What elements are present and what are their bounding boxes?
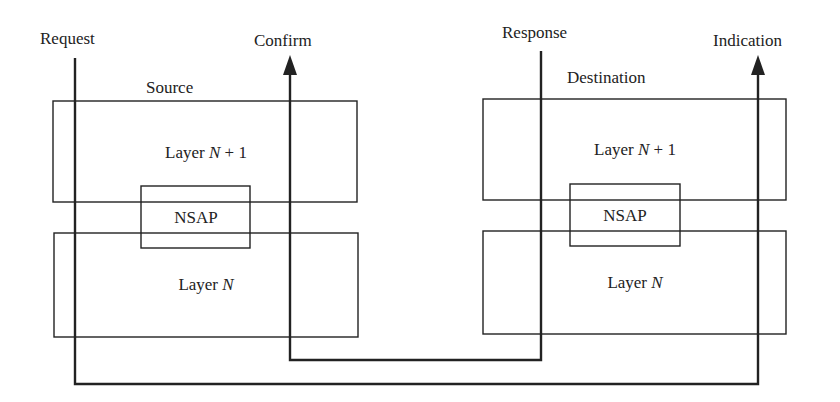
request-label: Request [40,30,95,47]
confirm-label: Confirm [254,32,312,49]
response-to-confirm-line [290,51,541,360]
destination-nsap-label: NSAP [603,207,646,224]
indication-label: Indication [713,32,782,49]
response-label: Response [502,24,567,41]
destination-layer-n-label: Layer N [607,274,662,291]
destination-label: Destination [567,69,645,86]
source-label: Source [146,79,193,96]
osi-service-primitives-diagram [0,0,840,402]
destination-layer-n-plus-1-label: Layer N + 1 [594,141,676,158]
indication-arrowhead-icon [751,55,765,75]
source-layer-n-label: Layer N [178,276,233,293]
source-layer-n-plus-1-label: Layer N + 1 [165,144,247,161]
source-nsap-label: NSAP [174,209,217,226]
confirm-arrowhead-icon [283,55,297,75]
